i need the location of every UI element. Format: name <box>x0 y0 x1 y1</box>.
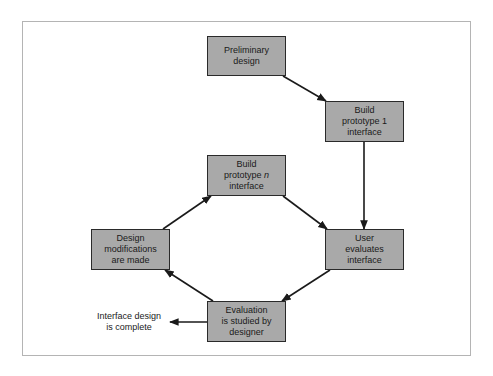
node-label-line: interface <box>229 181 264 192</box>
terminal-label-design-complete: Interface design is complete <box>92 311 166 333</box>
node-user-evaluates-interface: User evaluates interface <box>325 229 404 270</box>
node-label-line: Design <box>116 233 144 244</box>
node-design-modifications: Design modifications are made <box>91 229 170 270</box>
node-label-line: User <box>355 233 374 244</box>
edge-user-evaluates-to-evaluation <box>282 270 330 301</box>
node-build-prototype-1: Build prototype 1 interface <box>325 101 404 142</box>
node-label-line: prototype 1 <box>342 116 387 127</box>
node-label-line: interface <box>347 255 382 266</box>
node-label-line: Build <box>236 159 256 170</box>
node-label-line: prototype n <box>224 170 269 181</box>
node-label-line: modifications <box>104 244 157 255</box>
node-label-line: design <box>233 56 260 67</box>
node-build-prototype-n: Build prototype n interface <box>207 155 286 196</box>
terminal-label-line: is complete <box>92 322 166 333</box>
node-label-fragment: prototype <box>224 170 264 180</box>
node-label-line: designer <box>229 327 264 338</box>
node-evaluation-studied: Evaluation is studied by designer <box>207 301 286 342</box>
node-label-line: evaluates <box>345 244 384 255</box>
edge-modifications-to-prototypeN <box>163 196 211 229</box>
node-label-line: Preliminary <box>224 45 269 56</box>
node-label-line: Build <box>354 105 374 116</box>
edge-preliminary-to-prototype1 <box>283 76 326 101</box>
node-label-line: is studied by <box>221 316 271 327</box>
edge-prototypeN-to-user-evaluates <box>283 196 327 229</box>
node-preliminary-design: Preliminary design <box>207 36 286 76</box>
node-label-line: are made <box>111 255 149 266</box>
edge-evaluation-to-modifications <box>165 270 213 301</box>
node-label-line: Evaluation <box>225 305 267 316</box>
node-label-line: interface <box>347 127 382 138</box>
terminal-label-line: Interface design <box>92 311 166 322</box>
node-label-italic: n <box>264 170 269 180</box>
